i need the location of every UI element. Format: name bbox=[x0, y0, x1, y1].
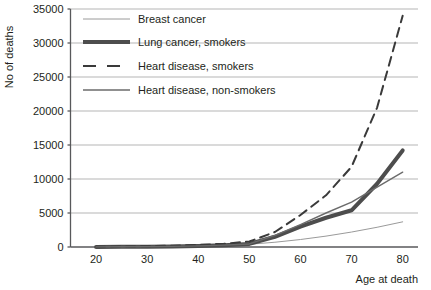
y-axis-tick-label: 35000 bbox=[33, 3, 64, 15]
x-axis-title: Age at death bbox=[356, 273, 418, 285]
legend-label: Heart disease, smokers bbox=[138, 60, 254, 72]
y-axis-tick-label: 15000 bbox=[33, 139, 64, 151]
y-axis-title: No of deaths bbox=[3, 25, 15, 88]
x-axis-tick-label: 50 bbox=[243, 253, 255, 265]
y-axis-tick-label: 10000 bbox=[33, 173, 64, 185]
x-axis-tick-label: 30 bbox=[141, 253, 153, 265]
y-axis-tick-label: 25000 bbox=[33, 71, 64, 83]
chart-figure: 35000300002500020000150001000050000 2030… bbox=[0, 0, 431, 290]
legend-label: Heart disease, non-smokers bbox=[138, 84, 276, 96]
x-axis-tick-label: 80 bbox=[397, 253, 409, 265]
y-axis-tick-label: 0 bbox=[57, 241, 63, 253]
y-axis-tick-label: 20000 bbox=[33, 105, 64, 117]
line-chart: 35000300002500020000150001000050000 2030… bbox=[0, 0, 431, 290]
x-axis-tick-label: 70 bbox=[345, 253, 357, 265]
y-axis-tick-label: 30000 bbox=[33, 37, 64, 49]
legend-label: Lung cancer, smokers bbox=[138, 36, 246, 48]
x-axis-tick-label: 40 bbox=[192, 253, 204, 265]
legend-label: Breast cancer bbox=[138, 13, 206, 25]
x-axis-tick-label: 60 bbox=[294, 253, 306, 265]
y-axis-tick-label: 5000 bbox=[39, 207, 63, 219]
x-axis-tick-label: 20 bbox=[90, 253, 102, 265]
